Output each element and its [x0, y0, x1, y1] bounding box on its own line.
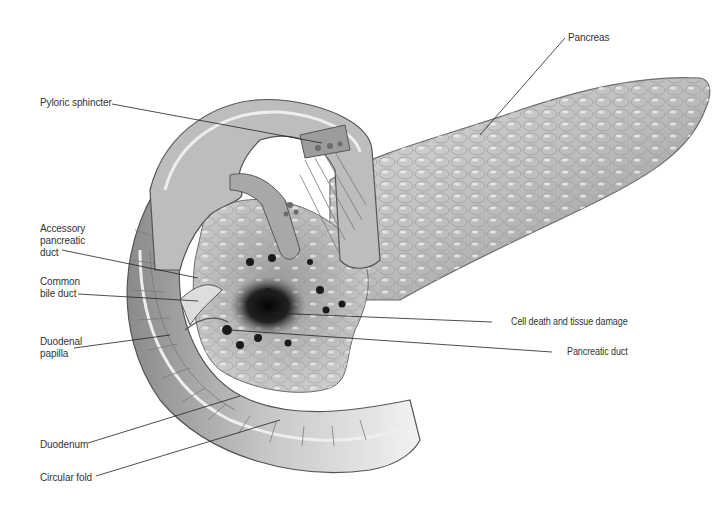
label-duodenal-papilla: Duodenal papilla	[40, 336, 82, 360]
pancreas-anatomy-illustration	[0, 0, 716, 513]
label-common-bile-duct: Common bile duct	[40, 276, 80, 300]
pancreas-body-tail	[330, 78, 710, 300]
label-pancreas: Pancreas	[568, 32, 609, 44]
label-cell-death-tissue-damage: Cell death and tissue damage	[511, 316, 628, 328]
necrosis-region	[230, 276, 306, 336]
label-pyloric-sphincter: Pyloric sphincter	[40, 97, 112, 109]
label-accessory-pancreatic-duct: Accessory pancreatic duct	[40, 223, 85, 259]
label-duodenum: Duodenum	[40, 439, 88, 451]
label-circular-fold: Circular fold	[40, 472, 92, 484]
label-pancreatic-duct: Pancreatic duct	[567, 346, 628, 358]
